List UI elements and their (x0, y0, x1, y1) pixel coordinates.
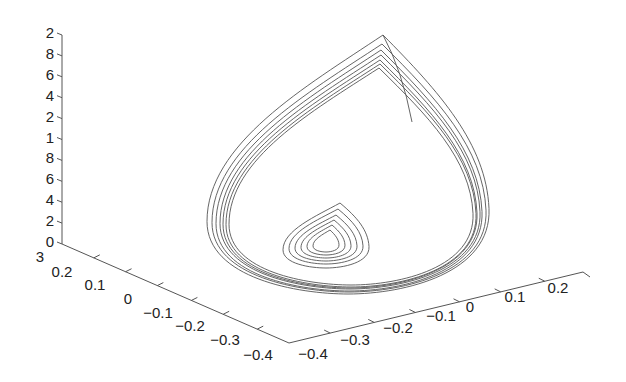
right-tick-label: −0.3 (340, 331, 370, 348)
right-tick (409, 309, 415, 312)
z-tick-label: 1 (46, 129, 54, 146)
right-tick-label: −0.2 (383, 319, 413, 336)
left-tick (157, 283, 163, 286)
right-axis-end (583, 272, 590, 277)
left-tick-label: −0.3 (210, 331, 240, 348)
z-tick (57, 33, 62, 35)
z-tick-label: 8 (46, 149, 54, 166)
left-tick-label: −0.4 (243, 346, 273, 363)
right-tick-label: −0.1 (426, 307, 456, 324)
z-axis-ticks: 28642186420 (46, 24, 62, 250)
z-tick-label: 6 (46, 170, 54, 187)
orbit-tail (383, 35, 412, 122)
left-tick-label: 0.2 (52, 263, 73, 280)
z-tick-label: 0 (46, 233, 54, 250)
z-tick (57, 96, 62, 98)
right-tick (454, 299, 460, 302)
inner-orbit (295, 215, 357, 261)
z-tick (57, 75, 62, 77)
z-tick (57, 200, 62, 202)
inner-orbit (307, 225, 345, 255)
left-tick-label: 0.1 (85, 276, 106, 293)
right-tick-label: −0.4 (298, 345, 328, 362)
outer-orbit (223, 60, 477, 288)
left-tick (126, 269, 132, 272)
z-tick-label: 2 (46, 24, 54, 41)
left-tick-label: 0 (124, 290, 132, 307)
left-axis: 30.20.10−0.1−0.2−0.3−0.4 (36, 244, 289, 363)
left-tick (94, 255, 100, 258)
z-tick-label: 6 (46, 66, 54, 83)
right-tick (324, 330, 330, 333)
left-tick-label: −0.1 (143, 304, 173, 321)
left-tick-label: 3 (36, 248, 44, 265)
right-tick (495, 289, 501, 292)
z-tick (57, 242, 62, 244)
outer-orbit (229, 68, 473, 285)
right-tick-label: 0 (466, 298, 474, 315)
left-tick (191, 297, 197, 300)
outer-orbit (212, 44, 486, 292)
left-tick-label: −0.2 (175, 317, 205, 334)
z-tick (57, 221, 62, 223)
right-tick-label: 0.1 (505, 288, 526, 305)
z-axis: 28642186420 (46, 24, 62, 250)
z-tick-label: 4 (46, 191, 54, 208)
z-tick-label: 8 (46, 45, 54, 62)
z-tick (57, 158, 62, 160)
outer-orbit (220, 55, 480, 289)
right-tick-label: 0.2 (548, 279, 569, 296)
z-tick-label: 2 (46, 108, 54, 125)
z-tick-label: 4 (46, 87, 54, 104)
z-tick (57, 138, 62, 140)
right-tick (368, 319, 374, 322)
outer-orbit (216, 50, 482, 291)
z-tick (57, 54, 62, 56)
chart-3d-plot: 28642186420 30.20.10−0.1−0.2−0.3−0.4 −0.… (0, 0, 626, 382)
left-tick (257, 326, 263, 329)
inner-teardrop-series (283, 203, 369, 268)
z-tick-label: 2 (46, 212, 54, 229)
z-tick (57, 117, 62, 119)
z-tick (57, 179, 62, 181)
right-axis: −0.4−0.3−0.2−0.100.10.2 (289, 272, 590, 362)
left-tick (223, 311, 229, 314)
outer-orbit (226, 64, 476, 287)
right-tick (539, 278, 545, 281)
outer-teardrop-series (207, 35, 489, 294)
